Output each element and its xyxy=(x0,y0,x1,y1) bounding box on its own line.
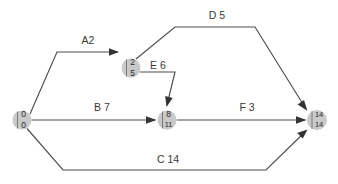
node-n4[interactable]: 14 14 xyxy=(307,110,327,130)
node-n3-late-label: 11 xyxy=(165,120,173,129)
edge-f xyxy=(177,116,307,124)
edge-label-a: A2 xyxy=(82,34,95,46)
edge-d-arrowhead xyxy=(298,100,308,111)
node-n3[interactable]: 8 11 xyxy=(158,109,177,129)
edge-label-c: C 14 xyxy=(157,153,179,165)
node-n2-early-label: 2 xyxy=(130,57,135,67)
network-diagram-svg: 0 0 2 5 8 11 14 14 A2 B 7 C 14 D 5 E xyxy=(0,0,338,184)
edge-a-arrowhead xyxy=(109,48,119,56)
edge-c-arrowhead xyxy=(297,130,307,139)
edge-label-d: D 5 xyxy=(209,9,226,21)
edge-b xyxy=(32,116,157,124)
node-n4-late-label: 14 xyxy=(315,120,323,129)
network-diagram-canvas: 0 0 2 5 8 11 14 14 A2 B 7 C 14 D 5 E xyxy=(0,0,338,184)
edge-e-arrowhead xyxy=(165,96,173,107)
edge-label-f: F 3 xyxy=(239,101,254,113)
node-n3-early-label: 8 xyxy=(166,109,171,119)
node-n1-late-label: 0 xyxy=(21,120,26,130)
node-n1[interactable]: 0 0 xyxy=(13,109,32,130)
edge-f-arrowhead xyxy=(296,116,307,124)
edge-b-arrowhead xyxy=(146,116,157,124)
edge-label-e: E 6 xyxy=(150,59,166,71)
node-n2-late-label: 5 xyxy=(130,68,135,78)
edge-label-b: B 7 xyxy=(94,101,110,113)
node-n2[interactable]: 2 5 xyxy=(122,57,141,78)
node-n1-early-label: 0 xyxy=(21,109,26,119)
node-n4-early-label: 14 xyxy=(315,110,323,119)
edge-e xyxy=(140,72,175,107)
